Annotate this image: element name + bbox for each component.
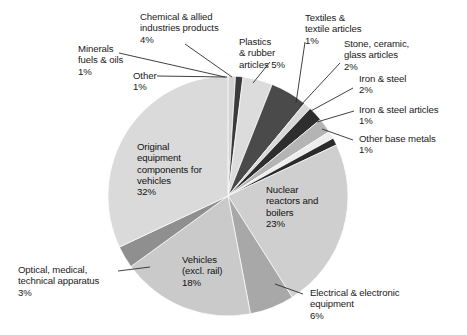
- slice-label-vehicles-excl-rail: Vehicles (excl. rail) 18%: [182, 254, 222, 288]
- slice-label-nuclear-reactors: Nuclear reactors and boilers 23%: [266, 184, 318, 229]
- slice-label-iron-steel-articles: Iron & steel articles 1%: [359, 104, 438, 127]
- pie-chart-figure: Minerals fuels & oils 1% Other 1% Chemic…: [0, 0, 467, 335]
- leader-line-other: [157, 76, 227, 77]
- slice-label-minerals-fuels-oils: Minerals fuels & oils 1%: [78, 43, 123, 77]
- slice-label-chemical-allied: Chemical & allied industries products 4%: [140, 11, 219, 45]
- leader-line-stone-ceramic-glass: [300, 63, 340, 106]
- slice-label-optical-medical: Optical, medical, technical apparatus 3%: [18, 264, 99, 298]
- leader-line-iron-steel: [309, 88, 353, 112]
- leader-line-chemical-allied: [185, 44, 232, 77]
- slice-label-other-base-metals: Other base metals 1%: [359, 133, 436, 156]
- slice-label-stone-ceramic-glass: Stone, ceramic, glass articles 2%: [344, 38, 409, 72]
- slice-label-plastics-rubber: Plastics & rubber articles 5%: [239, 36, 285, 70]
- leader-line-textiles: [296, 42, 305, 103]
- slice-label-electrical-electronic: Electrical & electronic equipment 6%: [310, 287, 399, 321]
- slice-label-other: Other 1%: [133, 70, 157, 93]
- slice-label-iron-steel: Iron & steel 2%: [359, 73, 406, 96]
- slice-label-original-equipment: Original equipment components for vehicl…: [137, 141, 202, 197]
- leader-line-iron-steel-articles: [317, 111, 354, 122]
